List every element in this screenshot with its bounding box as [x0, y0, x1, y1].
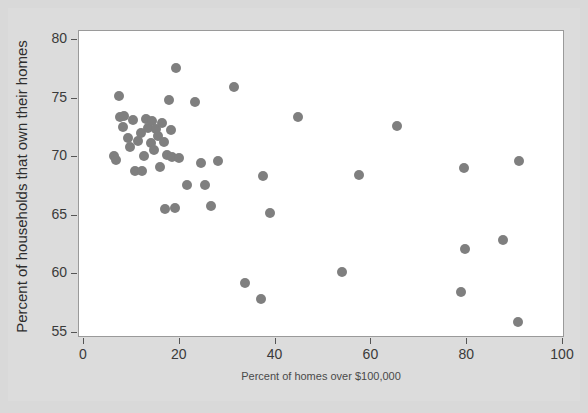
data-point	[155, 162, 165, 172]
x-tick-label: 20	[159, 346, 199, 362]
data-point	[111, 155, 121, 165]
data-point	[170, 203, 180, 213]
data-point	[196, 158, 206, 168]
data-point	[166, 125, 176, 135]
y-tick-mark	[71, 215, 77, 216]
x-tick-label: 80	[446, 346, 486, 362]
y-tick-mark	[71, 39, 77, 40]
data-point	[118, 122, 128, 132]
x-tick-mark	[562, 338, 563, 344]
data-point	[171, 63, 181, 73]
x-tick-mark	[179, 338, 180, 344]
data-point	[149, 145, 159, 155]
data-point	[200, 180, 210, 190]
data-point	[337, 267, 347, 277]
data-point	[498, 235, 508, 245]
data-point	[174, 153, 184, 163]
data-point	[164, 95, 174, 105]
data-point	[213, 156, 223, 166]
data-point	[456, 287, 466, 297]
x-axis-title: Percent of homes over $100,000	[78, 370, 564, 382]
scatter-points-layer	[79, 31, 563, 336]
y-tick-mark	[71, 273, 77, 274]
data-point	[514, 156, 524, 166]
x-tick-mark	[466, 338, 467, 344]
data-point	[139, 151, 149, 161]
data-point	[392, 121, 402, 131]
data-point	[293, 112, 303, 122]
data-point	[460, 244, 470, 254]
y-tick-mark	[71, 332, 77, 333]
plot-panel	[78, 30, 564, 337]
data-point	[240, 278, 250, 288]
x-tick-label: 0	[63, 346, 103, 362]
data-point	[159, 137, 169, 147]
data-point	[182, 180, 192, 190]
data-point	[513, 317, 523, 327]
x-tick-mark	[275, 338, 276, 344]
data-point	[229, 82, 239, 92]
figure-container: 556065707580 020406080100 Percent of hom…	[0, 0, 588, 413]
data-point	[190, 97, 200, 107]
y-tick-label: 55	[33, 323, 67, 339]
x-tick-label: 40	[255, 346, 295, 362]
y-tick-label: 75	[33, 89, 67, 105]
data-point	[265, 208, 275, 218]
data-point	[354, 170, 364, 180]
y-tick-label: 70	[33, 147, 67, 163]
data-point	[114, 91, 124, 101]
y-tick-mark	[71, 98, 77, 99]
y-tick-mark	[71, 156, 77, 157]
data-point	[459, 163, 469, 173]
data-point	[137, 166, 147, 176]
data-point	[160, 204, 170, 214]
data-point	[206, 201, 216, 211]
x-tick-mark	[370, 338, 371, 344]
y-tick-label: 80	[33, 30, 67, 46]
x-tick-label: 60	[350, 346, 390, 362]
y-axis-title: Percent of households that own their hom…	[13, 27, 30, 347]
x-tick-mark	[83, 338, 84, 344]
y-tick-label: 60	[33, 264, 67, 280]
data-point	[256, 294, 266, 304]
x-tick-label: 100	[542, 346, 582, 362]
data-point	[258, 171, 268, 181]
y-tick-label: 65	[33, 206, 67, 222]
data-point	[128, 115, 138, 125]
